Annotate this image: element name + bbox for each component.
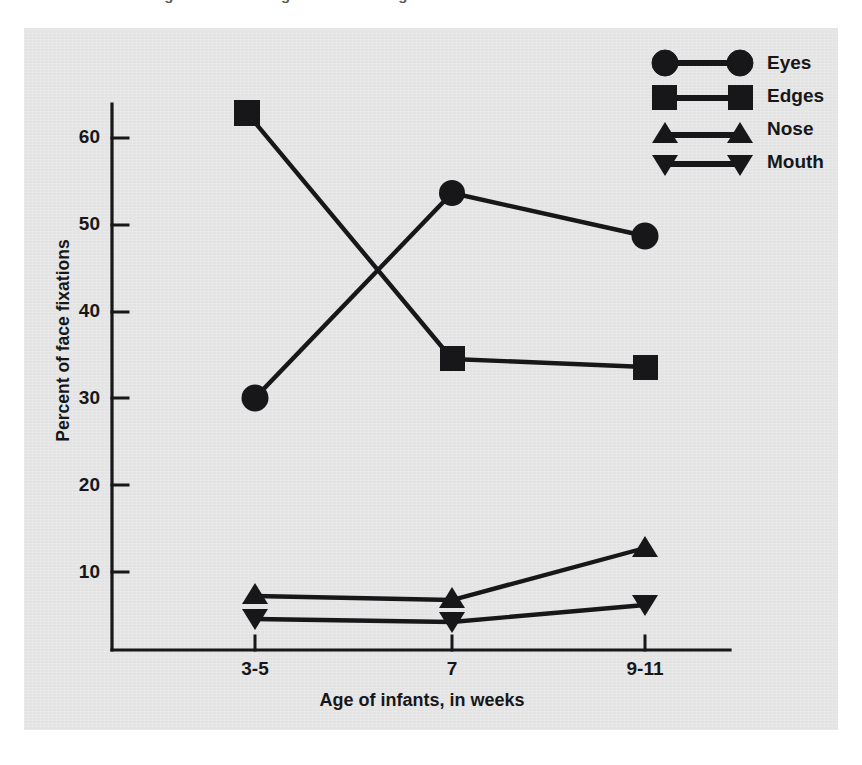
- y-tick-label-60: 60: [55, 126, 100, 148]
- marker-edges-3-5: [234, 100, 260, 126]
- chart-legend: Eyes Edges Nose Mouth: [645, 48, 835, 180]
- legend-item-nose: Nose: [645, 114, 835, 147]
- x-tick-label-3-5: 3-5: [241, 658, 268, 680]
- y-axis-ticks: [112, 138, 128, 572]
- x-axis-title: Age of infants, in weeks: [112, 690, 732, 711]
- legend-label-edges: Edges: [767, 85, 824, 107]
- marker-eyes-3-5: [242, 385, 269, 412]
- marker-nose-3-5: [242, 583, 268, 604]
- marker-eyes-9-11: [632, 223, 659, 250]
- marker-edges-7: [440, 346, 465, 371]
- marker-edges-9-11: [633, 355, 658, 380]
- legend-label-eyes: Eyes: [767, 52, 811, 74]
- y-axis-title: Percent of face fixations: [53, 226, 74, 456]
- x-tick-label-9-11: 9-11: [627, 658, 664, 680]
- y-tick-label-20: 20: [55, 474, 100, 496]
- legend-item-eyes: Eyes: [645, 48, 835, 81]
- legend-label-nose: Nose: [767, 118, 813, 140]
- marker-nose-9-11: [632, 536, 658, 557]
- x-axis-ticks: [255, 636, 645, 650]
- series-line-edges: [247, 113, 645, 367]
- marker-eyes-7: [439, 180, 465, 206]
- y-tick-label-10: 10: [55, 561, 100, 583]
- legend-item-mouth: Mouth: [645, 147, 835, 180]
- legend-item-edges: Edges: [645, 81, 835, 114]
- legend-label-mouth: Mouth: [767, 151, 824, 173]
- x-tick-label-7: 7: [447, 658, 458, 680]
